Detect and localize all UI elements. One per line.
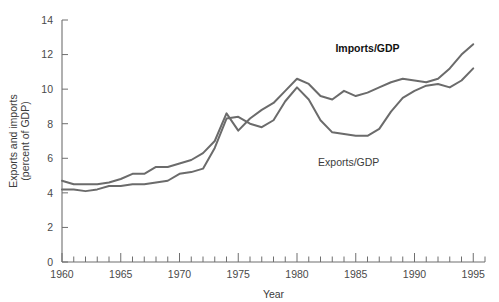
- series-label-exports-gdp: Exports/GDP: [318, 156, 379, 168]
- y-tick-label: 14: [41, 14, 53, 26]
- y-tick-label: 2: [47, 221, 53, 233]
- x-tick-label: 1975: [227, 268, 251, 280]
- series-line-imports-gdp: [62, 44, 473, 184]
- series-label-imports-gdp: Imports/GDP: [335, 42, 399, 54]
- y-tick-label: 0: [47, 256, 53, 268]
- x-axis-ticks: 19601965197019751980198519901995: [50, 253, 485, 280]
- x-tick-label: 1985: [344, 268, 368, 280]
- x-axis-title: Year: [263, 288, 285, 300]
- line-chart: 02468101214 1960196519701975198019851990…: [0, 0, 499, 302]
- y-axis-title-line1: Exports and imports: [7, 94, 19, 187]
- data-series-group: [62, 44, 473, 191]
- x-tick-label: 1970: [168, 268, 192, 280]
- y-tick-label: 6: [47, 152, 53, 164]
- y-tick-label: 8: [47, 118, 53, 130]
- x-tick-label: 1995: [462, 268, 486, 280]
- x-tick-label: 1960: [50, 268, 74, 280]
- y-axis-ticks: 02468101214: [41, 14, 68, 268]
- y-axis-title-line2: (percent of GDP): [19, 101, 31, 180]
- y-tick-label: 4: [47, 187, 53, 199]
- x-tick-label: 1965: [109, 268, 133, 280]
- x-tick-label: 1980: [285, 268, 309, 280]
- chart-page: 02468101214 1960196519701975198019851990…: [0, 0, 499, 302]
- y-tick-label: 10: [41, 83, 53, 95]
- x-tick-label: 1990: [403, 268, 427, 280]
- series-annotations-group: Imports/GDPExports/GDP: [318, 42, 400, 168]
- series-line-exports-gdp: [62, 68, 473, 191]
- y-tick-label: 12: [41, 48, 53, 60]
